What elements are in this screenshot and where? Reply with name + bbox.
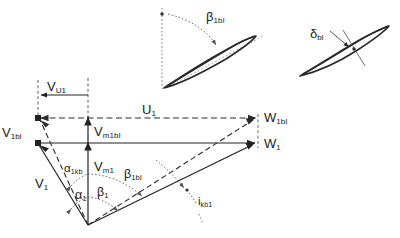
label-v-1: V1 (35, 177, 48, 190)
label-v-m1: Vm1 (94, 160, 114, 173)
meridional-group (84, 116, 92, 225)
label-beta-1: β1 (97, 186, 109, 199)
velocity-triangle-figure: β1bl δbl VU1 U1 W1bl V1bl Vm1bl W1 α1kb … (0, 0, 400, 238)
label-beta-1bl-triangle: β1bl (124, 168, 142, 181)
w1-origin-node (35, 140, 41, 146)
label-beta-1bl-blade: β1bl (206, 10, 225, 23)
label-v-m1bl: Vm1bl (94, 125, 121, 138)
v-1bl-arrowhead (40, 120, 49, 128)
label-v-u1: VU1 (47, 80, 66, 93)
label-v-1bl: V1bl (2, 126, 22, 139)
label-delta-bl: δbl (310, 27, 324, 40)
label-w-1: W1 (264, 137, 281, 150)
i-kb1-anchor-point (185, 188, 188, 191)
i-kb1-leader (188, 191, 196, 203)
delta-bl-leader (330, 31, 349, 47)
incidence-upper-arc (156, 160, 184, 188)
w1-horizontal-group (35, 140, 255, 146)
label-alpha-1kb: α1kb (64, 163, 82, 175)
w-1bl-arrowhead (246, 118, 255, 124)
thickness-measure-point (352, 47, 355, 50)
label-i-kb1: ikb1 (198, 196, 212, 208)
w-1-group (88, 143, 255, 225)
label-u1: U1 (142, 103, 156, 116)
w-1-arrowhead (245, 143, 255, 149)
u1-left-arrowhead (40, 115, 49, 121)
label-alpha-1: α1 (75, 189, 87, 202)
top-blade-suction-surface (167, 36, 255, 86)
top-blade-angle-vertex (160, 12, 163, 15)
i-kb1-tail (199, 214, 203, 224)
label-w-1bl: W1bl (264, 111, 287, 124)
w-1-vector (88, 145, 252, 225)
